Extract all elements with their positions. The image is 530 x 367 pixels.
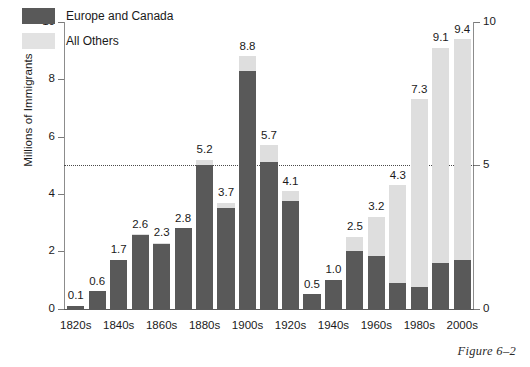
bar-segment-europe-and-canada xyxy=(282,201,299,308)
x-tick-label-1960s: 1960s xyxy=(361,319,392,331)
bar-value-label-1880s: 5.2 xyxy=(197,144,213,156)
figure-caption: Figure 6–2 xyxy=(458,344,516,359)
legend-item-all-others: All Others xyxy=(22,33,173,49)
bar-value-label-1990s: 9.1 xyxy=(433,32,449,44)
bar-segment-europe-and-canada xyxy=(368,256,385,309)
y-tick-label-right-10: 10 xyxy=(483,16,496,28)
x-tick-label-1840s: 1840s xyxy=(103,319,134,331)
y-tick-right-5 xyxy=(474,165,480,166)
bar-value-label-1960s: 3.2 xyxy=(368,201,384,213)
bar-value-label-1820s: 0.1 xyxy=(68,290,84,302)
y-tick-right-0 xyxy=(474,309,480,310)
bar-segment-europe-and-canada xyxy=(175,228,192,308)
bar-segment-europe-and-canada xyxy=(239,71,256,309)
x-tick-label-1880s: 1880s xyxy=(189,319,220,331)
legend: Europe and Canada All Others xyxy=(22,8,173,58)
bar-segment-europe-and-canada xyxy=(196,165,213,308)
y-tick-label-left-8: 8 xyxy=(49,74,55,86)
x-tick-label-1900s: 1900s xyxy=(232,319,263,331)
bar-segment-all-others xyxy=(260,145,277,162)
bar-value-label-1860s: 2.3 xyxy=(154,227,170,239)
bar-value-label-1840s: 1.7 xyxy=(111,244,127,256)
y-tick-label-left-0: 0 xyxy=(49,303,55,315)
bar-segment-all-others xyxy=(346,237,363,251)
bar-segment-europe-and-canada xyxy=(325,280,342,309)
bar-segment-all-others xyxy=(368,217,385,256)
bar-1990s[interactable] xyxy=(432,48,449,309)
bar-segment-all-others xyxy=(239,56,256,70)
bar-value-label-1980s: 7.3 xyxy=(411,84,427,96)
bar-value-label-1920s: 4.1 xyxy=(282,176,298,188)
x-tick-label-1980s: 1980s xyxy=(404,319,435,331)
bar-1890s[interactable] xyxy=(217,203,234,309)
y-tick-label-right-0: 0 xyxy=(483,303,489,315)
bar-1850s[interactable] xyxy=(132,234,149,308)
bar-1910s[interactable] xyxy=(260,145,277,308)
bar-1920s[interactable] xyxy=(282,191,299,308)
bar-series-group: 0.10.61.72.62.32.85.23.78.85.74.10.51.02… xyxy=(65,22,473,309)
legend-swatch-icon-light xyxy=(22,33,55,49)
bar-value-label-2000s: 9.4 xyxy=(454,24,470,36)
bar-1940s[interactable] xyxy=(325,280,342,309)
bar-segment-all-others xyxy=(432,48,449,263)
bar-value-label-1900s: 8.8 xyxy=(240,41,256,53)
bar-segment-europe-and-canada xyxy=(132,235,149,308)
y-tick-label-left-6: 6 xyxy=(49,131,55,143)
plot-area: 0246810 0510 0.10.61.72.62.32.85.23.78.8… xyxy=(64,22,474,310)
legend-label-europe-and-canada: Europe and Canada xyxy=(66,10,173,22)
bar-segment-all-others xyxy=(282,191,299,201)
bar-value-label-1890s: 3.7 xyxy=(218,187,234,199)
bar-1840s[interactable] xyxy=(110,260,127,309)
y-tick-right-10 xyxy=(474,22,480,23)
bar-1980s[interactable] xyxy=(411,99,428,308)
y-tick-label-left-2: 2 xyxy=(49,245,55,257)
bar-1880s[interactable] xyxy=(196,160,213,309)
legend-swatch-icon-dark xyxy=(22,8,55,24)
bar-segment-europe-and-canada xyxy=(110,260,127,309)
bar-1830s[interactable] xyxy=(89,291,106,308)
bar-segment-europe-and-canada xyxy=(346,251,363,308)
bar-value-label-1830s: 0.6 xyxy=(89,276,105,288)
bar-value-label-1930s: 0.5 xyxy=(304,279,320,291)
bar-value-label-1910s: 5.7 xyxy=(261,130,277,142)
y-tick-left-6 xyxy=(58,137,64,138)
bar-value-label-1940s: 1.0 xyxy=(325,264,341,276)
bar-1900s[interactable] xyxy=(239,56,256,308)
y-tick-label-left-4: 4 xyxy=(49,188,55,200)
y-tick-label-right-5: 5 xyxy=(483,160,489,172)
y-tick-left-8 xyxy=(58,79,64,80)
y-tick-left-0 xyxy=(58,309,64,310)
bar-segment-all-others xyxy=(454,39,471,260)
x-tick-label-1920s: 1920s xyxy=(275,319,306,331)
bar-1820s[interactable] xyxy=(67,306,84,309)
bar-segment-europe-and-canada xyxy=(217,208,234,308)
bar-1970s[interactable] xyxy=(389,185,406,308)
bar-segment-europe-and-canada xyxy=(260,162,277,308)
bar-1860s[interactable] xyxy=(153,243,170,309)
bar-1870s[interactable] xyxy=(175,228,192,308)
x-tick-label-2000s: 2000s xyxy=(447,319,478,331)
bar-segment-europe-and-canada xyxy=(432,263,449,309)
bar-1930s[interactable] xyxy=(303,294,320,308)
x-tick-label-1820s: 1820s xyxy=(60,319,91,331)
bar-segment-europe-and-canada xyxy=(67,306,84,309)
bar-segment-europe-and-canada xyxy=(454,260,471,309)
bar-value-label-1870s: 2.8 xyxy=(175,213,191,225)
bar-segment-europe-and-canada xyxy=(153,244,170,308)
bar-2000s[interactable] xyxy=(454,39,471,308)
bar-value-label-1970s: 4.3 xyxy=(390,170,406,182)
bar-1960s[interactable] xyxy=(368,217,385,309)
bar-segment-all-others xyxy=(389,185,406,282)
x-tick-label-1940s: 1940s xyxy=(318,319,349,331)
bar-1950s[interactable] xyxy=(346,237,363,309)
bar-segment-europe-and-canada xyxy=(411,287,428,308)
y-tick-left-4 xyxy=(58,194,64,195)
y-tick-left-2 xyxy=(58,251,64,252)
bar-segment-europe-and-canada xyxy=(389,283,406,309)
legend-label-all-others: All Others xyxy=(66,35,119,47)
bar-segment-all-others xyxy=(411,99,428,287)
bar-value-label-1850s: 2.6 xyxy=(132,219,148,231)
bar-value-label-1950s: 2.5 xyxy=(347,221,363,233)
bar-segment-europe-and-canada xyxy=(303,294,320,308)
x-tick-label-1860s: 1860s xyxy=(146,319,177,331)
